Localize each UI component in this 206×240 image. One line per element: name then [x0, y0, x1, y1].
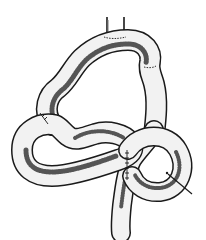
intestinal-loop-illustration [0, 0, 206, 240]
tube-left-loop [22, 124, 132, 176]
